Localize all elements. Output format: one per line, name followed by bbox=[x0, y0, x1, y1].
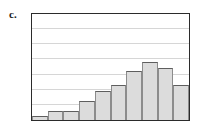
histogram-bar bbox=[126, 71, 142, 120]
histogram-bar bbox=[48, 111, 64, 120]
plot-frame bbox=[31, 13, 190, 121]
histogram-bars bbox=[32, 14, 189, 120]
histogram-bar bbox=[142, 62, 158, 120]
figure-panel: c. bbox=[0, 0, 202, 127]
panel-label: c. bbox=[9, 8, 17, 20]
histogram-bar bbox=[111, 85, 127, 120]
histogram-bar bbox=[63, 111, 79, 120]
histogram-bar bbox=[95, 91, 111, 120]
histogram-bar bbox=[158, 68, 174, 120]
histogram-bar bbox=[32, 116, 48, 120]
histogram-bar bbox=[79, 101, 95, 120]
histogram-bar bbox=[173, 85, 189, 120]
